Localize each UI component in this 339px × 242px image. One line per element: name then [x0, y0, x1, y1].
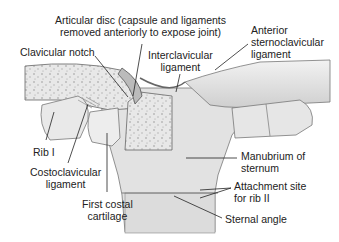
label-line: Interclavicular: [148, 49, 213, 61]
label-line: Anterior: [251, 24, 324, 36]
label-line: removed anteriorly to expose joint): [55, 26, 226, 38]
label-manubrium: Manubrium of sternum: [241, 150, 305, 174]
label-line: First costal: [82, 198, 133, 210]
label-rib-one: Rib I: [33, 146, 55, 158]
first-costal-cartilage: [88, 108, 120, 146]
label-line: ligament: [30, 178, 101, 190]
label-line: Costoclavicular: [30, 166, 101, 178]
label-sternal-angle: Sternal angle: [225, 213, 287, 225]
label-line: sternum: [241, 162, 305, 174]
label-line: Attachment site: [234, 180, 306, 192]
label-first-costal-cartilage: First costal cartilage: [82, 198, 133, 222]
label-attachment-site-rib-two: Attachment site for rib II: [234, 180, 306, 204]
label-line: Articular disc (capsule and ligaments: [55, 14, 226, 26]
label-line: Manubrium of: [241, 150, 305, 162]
manubrium-section: [125, 92, 172, 150]
label-anterior-sternoclavicular-ligament: Anterior sternoclavicular ligament: [251, 24, 324, 60]
label-line: sternoclavicular: [251, 36, 324, 48]
label-line: ligament: [148, 61, 213, 73]
label-articular-disc: Articular disc (capsule and ligaments re…: [55, 14, 226, 38]
label-interclavicular-ligament: Interclavicular ligament: [148, 49, 213, 73]
label-costoclavicular-ligament: Costoclavicular ligament: [30, 166, 101, 190]
label-line: for rib II: [234, 192, 306, 204]
label-clavicular-notch: Clavicular notch: [20, 46, 95, 58]
label-line: cartilage: [82, 210, 133, 222]
label-line: ligament: [251, 48, 324, 60]
